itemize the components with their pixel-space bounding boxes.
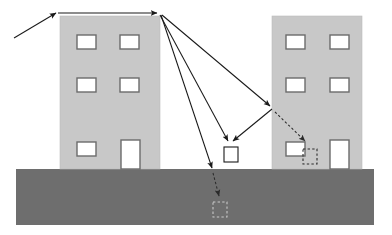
left-building-body bbox=[60, 16, 160, 169]
diffracted-ray-ground-bounce bbox=[161, 15, 212, 168]
left-building-window-r1c2 bbox=[120, 35, 139, 49]
incident-ray bbox=[14, 13, 56, 38]
right-building-window-r3c1 bbox=[286, 142, 305, 156]
left-building-window-r2c2 bbox=[120, 78, 139, 92]
right-building-window-r1c2 bbox=[330, 35, 349, 49]
left-building-door-r3c2 bbox=[121, 140, 140, 169]
left-building bbox=[60, 16, 160, 169]
diagram-canvas bbox=[0, 0, 392, 235]
left-building-window-r3c1 bbox=[77, 142, 96, 156]
ground-surface bbox=[16, 169, 374, 225]
left-building-window-r1c1 bbox=[77, 35, 96, 49]
right-building-window-r1c1 bbox=[286, 35, 305, 49]
wall-reflected-ray bbox=[233, 109, 272, 141]
right-building-window-r2c1 bbox=[286, 78, 305, 92]
right-building bbox=[272, 16, 362, 169]
propagation-diagram bbox=[0, 0, 392, 235]
diffracted-ray-direct bbox=[160, 15, 228, 141]
right-building-window-r2c2 bbox=[330, 78, 349, 92]
diffracted-ray-to-right-wall bbox=[162, 15, 270, 106]
right-building-door-r3c2 bbox=[330, 140, 349, 169]
left-building-window-r2c1 bbox=[77, 78, 96, 92]
receiver-outdoor bbox=[224, 147, 238, 162]
